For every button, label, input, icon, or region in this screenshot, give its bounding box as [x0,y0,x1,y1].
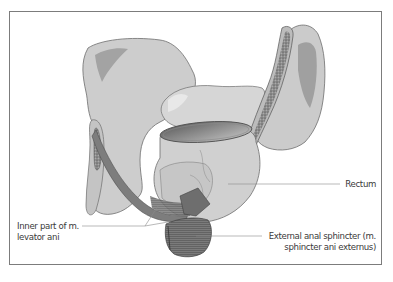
label-levator-line1: Inner part of m. [17,221,79,232]
label-rectum: Rectum [334,179,376,190]
label-levator-ani: Inner part of m. levator ani [17,221,79,242]
label-sphincter-line2: sphincter ani externus) [262,242,376,253]
label-levator-line2: levator ani [17,232,79,243]
label-external-anal-sphincter: External anal sphincter (m. sphincter an… [262,231,376,252]
external-anal-sphincter [165,218,211,257]
label-sphincter-line1: External anal sphincter (m. [262,231,376,242]
